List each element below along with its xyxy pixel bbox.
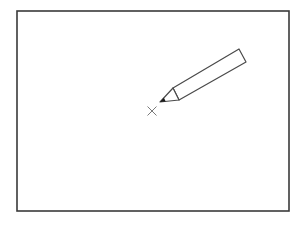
frame-border [17, 11, 289, 211]
cross-mark-icon [148, 107, 157, 116]
pencil-icon [160, 49, 246, 102]
pencil-body [173, 49, 246, 100]
diagram-canvas [0, 0, 305, 229]
diagram-svg [0, 0, 305, 229]
